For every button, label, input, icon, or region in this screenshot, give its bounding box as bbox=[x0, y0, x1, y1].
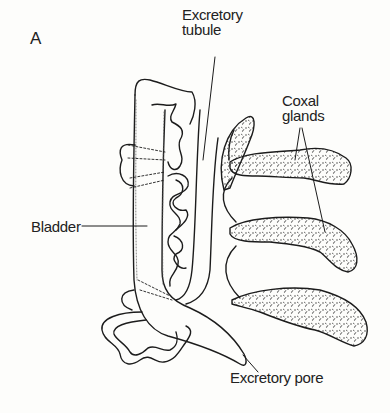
diagram-drawing bbox=[0, 0, 390, 413]
main-duct bbox=[176, 110, 218, 304]
excretory-tubule bbox=[152, 104, 188, 286]
coxal-glands bbox=[221, 117, 367, 346]
leader-lines bbox=[82, 57, 325, 372]
lower-tubule-loop bbox=[102, 312, 191, 364]
